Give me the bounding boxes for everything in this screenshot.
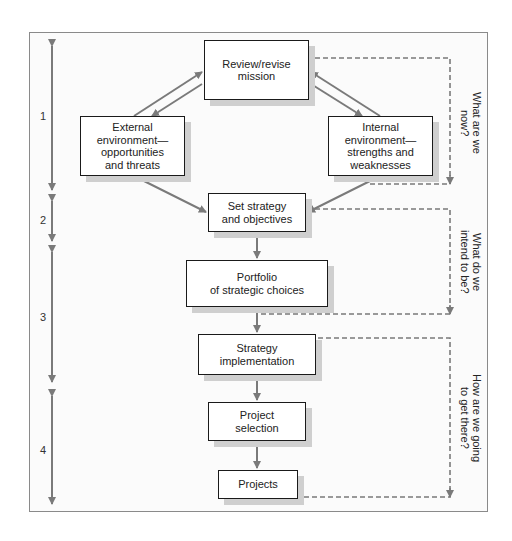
arrow-internal-to-strategy bbox=[308, 176, 380, 212]
box-portfolio: Portfolio of strategic choices bbox=[186, 260, 328, 307]
question-what-are-we-now: What are we now? bbox=[458, 78, 483, 168]
stage-number-1: 1 bbox=[40, 110, 46, 122]
question-intend-to-be: What do we intend to be? bbox=[458, 226, 483, 298]
box-external-environment: External environment— opportunities and … bbox=[80, 116, 185, 176]
box-project-selection: Project selection bbox=[208, 402, 306, 441]
box-strategy-implementation: Strategy implementation bbox=[198, 334, 316, 375]
box-projects: Projects bbox=[218, 470, 298, 499]
question-get-there: How are we going to get there? bbox=[458, 372, 483, 464]
stage-number-2: 2 bbox=[40, 214, 46, 226]
stage-number-3: 3 bbox=[40, 311, 46, 323]
arrow-internal-to-mission bbox=[311, 72, 380, 116]
arrow-external-to-strategy bbox=[134, 176, 206, 212]
box-set-strategy: Set strategy and objectives bbox=[208, 193, 306, 232]
box-review-mission: Review/revise mission bbox=[204, 40, 309, 100]
box-internal-environment: Internal environment— strengths and weak… bbox=[328, 116, 433, 176]
arrow-external-to-mission bbox=[134, 72, 202, 116]
dashed-bracket-get-there bbox=[302, 338, 450, 497]
stage-number-4: 4 bbox=[40, 444, 46, 456]
